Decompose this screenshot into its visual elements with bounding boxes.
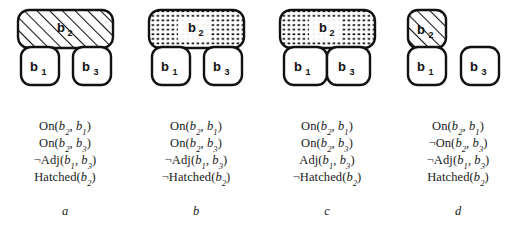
block-b1-subscript: 1	[305, 67, 310, 77]
block-b3-body	[461, 47, 499, 85]
block-b3-subscript: 3	[93, 67, 98, 77]
block-b3-body	[204, 47, 242, 85]
block-b1-body	[21, 47, 59, 85]
block-b3: b 3	[461, 47, 499, 85]
block-b3-subscript: 3	[349, 67, 354, 77]
panel-label-b: b	[131, 204, 261, 219]
diagram-panel-d: b 2 b 1 b 3	[393, 0, 521, 110]
block-b3: b 3	[327, 47, 370, 85]
block-b1-body	[152, 47, 190, 85]
block-b2-subscript: 2	[198, 28, 203, 38]
block-b1-body	[408, 47, 446, 85]
formula-line: On(b2, b3)	[131, 135, 261, 152]
formula-line: On(b2, b1)	[0, 118, 130, 135]
block-b1-subscript: 1	[428, 67, 433, 77]
block-b1-label: b	[417, 59, 425, 74]
formula-line: Adj(b1, b3)	[262, 152, 392, 169]
formula-line: On(b2, b1)	[131, 118, 261, 135]
diagram-svg-b: b 2 b 1 b 3	[131, 0, 261, 110]
block-b1: b 1	[152, 47, 190, 85]
block-b2-label: b	[188, 20, 196, 35]
formula-line: ¬Hatched(b2)	[262, 169, 392, 186]
block-b1-subscript: 1	[172, 67, 177, 77]
formula-column-c: On(b2, b1)On(b2, b3)Adj(b1, b3)¬Hatched(…	[262, 118, 392, 186]
panel-label-c: c	[262, 204, 392, 219]
formula-line: ¬Hatched(b2)	[131, 169, 261, 186]
block-b3: b 3	[73, 47, 111, 85]
block-b2: b 2	[18, 10, 113, 48]
block-b2-body	[18, 10, 113, 48]
block-b2-label: b	[417, 22, 425, 37]
diagram-svg-d: b 2 b 1 b 3	[393, 0, 521, 110]
block-b1: b 1	[284, 47, 327, 85]
formula-line: ¬Adj(b1, b3)	[0, 152, 130, 169]
block-b2: b 2	[408, 10, 446, 48]
diagram-panel-b: b 2 b 1 b 3	[131, 0, 261, 110]
formula-line: Hatched(b2)	[393, 169, 521, 186]
block-b2-label: b	[57, 20, 65, 35]
blocks-world-figure: b 2 b 1 b 3	[0, 0, 521, 238]
panel-label-d: d	[393, 204, 521, 219]
formula-line: Hatched(b2)	[0, 169, 130, 186]
formula-line: ¬Adj(b1, b3)	[393, 152, 521, 169]
block-b2-subscript: 2	[67, 28, 72, 38]
formula-line: On(b2, b1)	[262, 118, 392, 135]
block-b2-label: b	[319, 20, 327, 35]
diagram-svg-c: b 2 b 1 b 3	[262, 0, 392, 110]
block-b1: b 1	[408, 47, 446, 85]
formula-column-d: On(b2, b1)¬On(b2, b3)¬Adj(b1, b3)Hatched…	[393, 118, 521, 186]
block-b2-body	[408, 10, 446, 48]
block-b2-subscript: 2	[428, 30, 433, 40]
block-b3: b 3	[204, 47, 242, 85]
panel-label-a: a	[0, 204, 130, 219]
formula-line: ¬On(b2, b3)	[393, 135, 521, 152]
block-b1-body	[284, 47, 327, 85]
block-b1-subscript: 1	[41, 67, 46, 77]
block-b3-body	[73, 47, 111, 85]
block-b3-label: b	[470, 59, 478, 74]
block-b3-body	[327, 47, 370, 85]
block-b2-subscript: 2	[329, 28, 334, 38]
diagram-panel-c: b 2 b 1 b 3	[262, 0, 392, 110]
block-b3-subscript: 3	[481, 67, 486, 77]
block-b3-label: b	[338, 59, 346, 74]
diagram-svg-a: b 2 b 1 b 3	[0, 0, 130, 110]
block-b2: b 2	[280, 10, 375, 48]
formula-line: ¬Adj(b1, b3)	[131, 152, 261, 169]
formula-column-b: On(b2, b1)On(b2, b3)¬Adj(b1, b3)¬Hatched…	[131, 118, 261, 186]
block-b2: b 2	[149, 10, 244, 48]
formula-column-a: On(b2, b1)On(b2, b3)¬Adj(b1, b3)Hatched(…	[0, 118, 130, 186]
block-b1-label: b	[30, 59, 38, 74]
block-b3-label: b	[82, 59, 90, 74]
block-b1: b 1	[21, 47, 59, 85]
block-b3-subscript: 3	[224, 67, 229, 77]
diagram-panel-a: b 2 b 1 b 3	[0, 0, 130, 110]
formula-line: On(b2, b1)	[393, 118, 521, 135]
formula-line: On(b2, b3)	[0, 135, 130, 152]
formula-line: On(b2, b3)	[262, 135, 392, 152]
block-b1-label: b	[294, 59, 302, 74]
block-b3-label: b	[213, 59, 221, 74]
block-b1-label: b	[161, 59, 169, 74]
